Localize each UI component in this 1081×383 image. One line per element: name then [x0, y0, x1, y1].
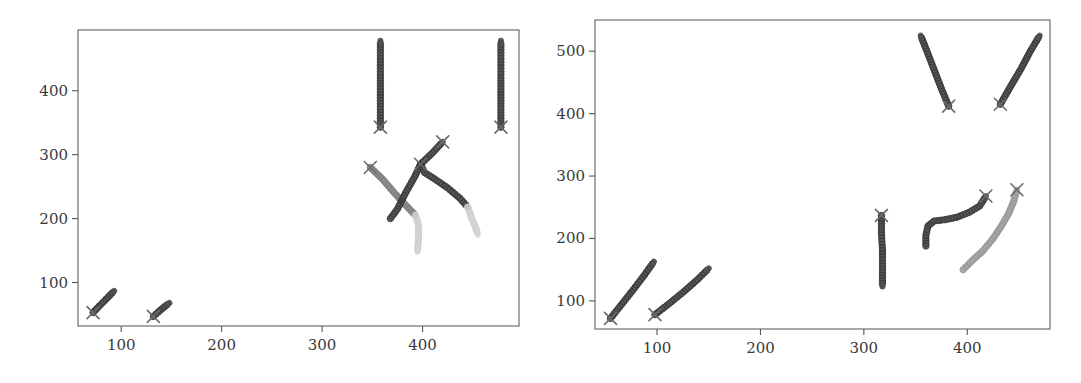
x-tick-label: 100: [643, 339, 672, 357]
x-axis: 100200300400: [107, 326, 437, 354]
x-tick-label: 300: [308, 336, 337, 354]
x-axis: 100200300400: [643, 329, 982, 357]
y-tick-label: 500: [556, 42, 585, 60]
trajectory-7: [415, 158, 469, 208]
y-tick-label: 300: [39, 146, 68, 164]
x-tick-label: 400: [408, 336, 437, 354]
trajectory-band: [655, 268, 709, 314]
plot-frame: [78, 30, 519, 326]
x-tick-label: 400: [953, 339, 982, 357]
trajectory-4: [923, 190, 992, 249]
trajectory-7: [994, 35, 1041, 110]
trajectory-5-tail: [412, 212, 421, 252]
y-tick-label: 100: [39, 274, 68, 292]
right-plot-svg: 100200300400100200300400500: [540, 0, 1081, 383]
trajectory-1: [605, 261, 656, 324]
trajectory-6: [919, 35, 955, 112]
trajectory-2: [649, 267, 710, 320]
x-tick-label: 100: [107, 336, 136, 354]
y-tick-label: 400: [39, 82, 68, 100]
trajectory-2: [147, 302, 170, 323]
y-axis: 100200300400500: [556, 42, 595, 310]
trajectory-4: [495, 41, 507, 134]
x-tick-label: 200: [207, 336, 236, 354]
left-trajectory-plot: 100200300400100200300400: [0, 0, 540, 383]
y-axis: 100200300400: [39, 82, 78, 292]
x-tick-label: 200: [746, 339, 775, 357]
trajectory-3: [875, 209, 887, 287]
trajectory-1: [87, 290, 115, 319]
plot-frame: [595, 20, 1050, 329]
y-tick-label: 200: [556, 229, 585, 247]
x-tick-label: 300: [850, 339, 879, 357]
trajectory-5: [960, 184, 1023, 273]
left-plot-svg: 100200300400100200300400: [0, 0, 540, 383]
y-tick-label: 300: [556, 167, 585, 185]
right-trajectory-plot: 100200300400100200300400500: [540, 0, 1081, 383]
y-tick-label: 400: [556, 105, 585, 123]
trajectory-3: [374, 41, 386, 134]
y-tick-label: 200: [39, 210, 68, 228]
trajectory-7-tail: [465, 204, 480, 235]
y-tick-label: 100: [556, 292, 585, 310]
trajectory-band: [611, 262, 654, 319]
